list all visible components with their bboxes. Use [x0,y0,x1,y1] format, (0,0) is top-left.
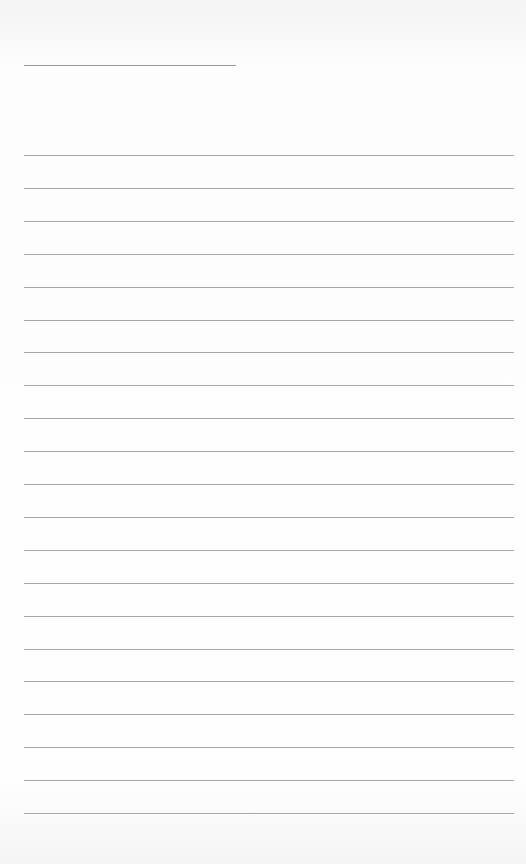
ruled-line [24,352,514,353]
ruled-line [24,714,514,715]
ruled-line [24,221,514,222]
ruled-line [24,254,514,255]
ruled-line [24,649,514,650]
ruled-line [24,747,514,748]
ruled-line [24,287,514,288]
ruled-line [24,616,514,617]
ruled-line [24,385,514,386]
ruled-line [24,188,514,189]
ruled-line [24,155,514,156]
ruled-line [24,517,514,518]
lined-paper-page [0,0,526,864]
ruled-line [24,451,514,452]
ruled-line [24,813,514,814]
title-line [24,65,236,66]
ruled-line [24,418,514,419]
ruled-line [24,550,514,551]
ruled-line [24,681,514,682]
ruled-line [24,780,514,781]
ruled-line [24,320,514,321]
ruled-line [24,484,514,485]
ruled-line [24,583,514,584]
